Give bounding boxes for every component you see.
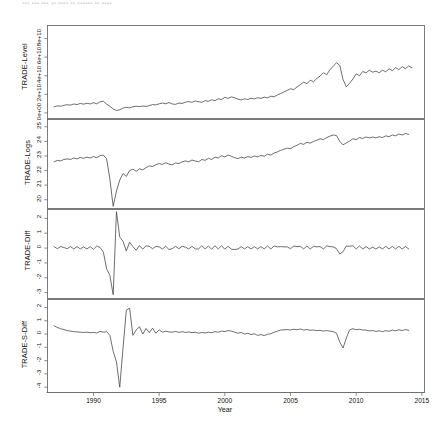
panel-3 (44, 210, 424, 299)
panel-2 (44, 120, 424, 209)
panel-4 (44, 300, 424, 396)
x-tick-label: 1990 (78, 397, 108, 404)
x-tick-label: 2000 (210, 397, 240, 404)
x-tick-label: 2015 (407, 397, 437, 404)
y-tick-label-panel-4: 2 (34, 288, 41, 324)
y-tick-label-panel-1: 8e+10 (34, 19, 41, 55)
timeseries-figure: ▪▪▪ ▪▪▪ ▪▪▪ ▪▪ ▪▪▪▪ ▪▪ ▪▪▪▪▪▪ ▪▪ ▪▪▪▪ TR… (0, 0, 445, 429)
x-tick-label: 1995 (144, 397, 174, 404)
panel-1 (44, 26, 424, 119)
x-tick-label: 2005 (276, 397, 306, 404)
y-tick-label-panel-2: 25 (34, 107, 41, 143)
plot-canvas (0, 0, 445, 429)
y-tick-label-panel-3: 2 (34, 199, 41, 235)
x-tick-label: 2010 (341, 397, 371, 404)
